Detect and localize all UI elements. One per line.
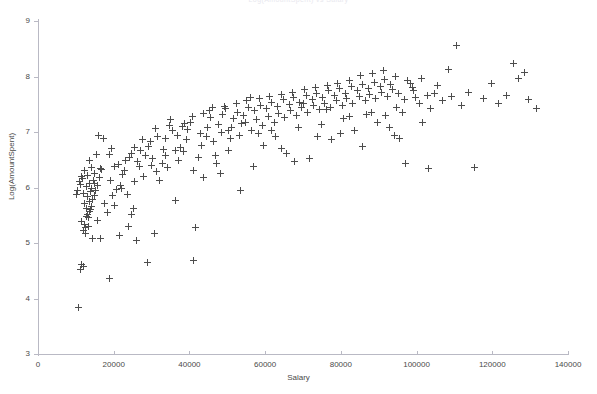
data-point [427,105,434,112]
data-point [369,70,376,77]
plot-area [38,21,568,354]
data-point [418,75,425,82]
data-point [525,96,532,103]
data-point [256,95,263,102]
data-point [78,173,85,180]
data-point [488,80,495,87]
data-point [386,124,393,131]
data-point [372,95,379,102]
data-point [374,119,381,126]
data-point [263,105,270,112]
data-point [101,200,108,207]
data-point [399,109,406,116]
data-point [230,115,237,122]
data-point [387,81,394,88]
data-point [225,147,232,154]
data-point [510,60,517,67]
data-point [259,122,266,129]
data-point [195,154,202,161]
scatter-chart: Log(AmountSpent) vs Salary 3456789 02000… [0,0,597,394]
data-point [162,152,169,159]
data-point [227,135,234,142]
data-point [300,100,307,107]
data-point [140,173,147,180]
data-point [238,120,245,127]
data-point [210,138,217,145]
data-point [95,132,102,139]
data-point [260,142,267,149]
data-point [251,107,258,114]
data-point [204,124,211,131]
data-point [154,133,161,140]
data-point [172,197,179,204]
data-point [323,106,330,113]
data-point [217,170,224,177]
data-point [190,167,197,174]
data-point [240,112,247,119]
data-point [458,102,465,109]
data-point [328,136,335,143]
data-point [108,145,115,152]
data-point [278,145,285,152]
data-point [212,152,219,159]
data-point [73,191,80,198]
data-point [131,144,138,151]
data-point [80,263,87,270]
data-point [266,93,273,100]
data-point [306,155,313,162]
data-point [289,89,296,96]
data-point [136,163,143,170]
data-point [167,116,174,123]
data-point [145,143,152,150]
data-point [448,93,455,100]
data-point [392,73,399,80]
data-point [380,67,387,74]
x-tick-label: 40000 [159,361,219,369]
data-point [349,100,356,107]
data-point [250,163,257,170]
data-point [75,304,82,311]
data-point [118,185,125,192]
data-point [125,223,132,230]
data-point [495,100,502,107]
data-point [233,100,240,107]
data-point [515,75,522,82]
data-point [357,72,364,79]
data-point [480,95,487,102]
data-point [314,133,321,140]
data-point [274,103,281,110]
data-point [342,90,349,97]
data-point [471,164,478,171]
data-point [88,164,95,171]
data-point [382,112,389,119]
data-point [377,83,384,90]
data-point [424,92,431,99]
data-point [247,94,254,101]
data-point [236,132,243,139]
data-point [453,42,460,49]
x-tick-label: 20000 [84,361,144,369]
data-point [368,109,375,116]
chart-title: Log(AmountSpent) vs Salary [0,0,597,4]
data-point [152,125,159,132]
data-point [156,177,163,184]
data-point [162,135,169,142]
data-point [107,177,114,184]
data-point [362,97,369,104]
data-point [354,87,361,94]
data-point [133,237,140,244]
data-point [151,230,158,237]
data-point [293,112,300,119]
data-point [365,85,372,92]
x-tick-label: 100000 [387,361,447,369]
data-point [503,92,510,99]
data-point [85,214,92,221]
data-point [209,104,216,111]
data-point [89,235,96,242]
data-point [281,114,288,121]
data-point [346,77,353,84]
data-point [207,114,214,121]
data-point [153,168,160,175]
data-point [434,82,441,89]
data-point [164,164,171,171]
